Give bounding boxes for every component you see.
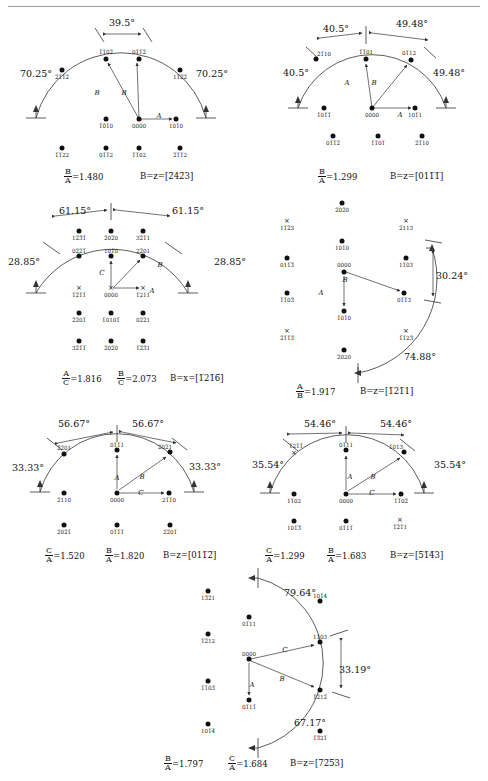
spot-1014-bottom-label: 101̅4̅	[201, 728, 215, 734]
spot-1212-right	[318, 688, 323, 693]
spot-0111-lower-label: 01̅11̅	[242, 704, 256, 710]
ratio-C-over-A-fraction: CA	[228, 755, 236, 773]
zone-axis-text: B=z=[72̅5̅3]	[290, 758, 343, 768]
arc-angle-top: 79.64°	[284, 587, 316, 598]
spot-1103-left	[206, 679, 211, 684]
spot-1103	[318, 640, 323, 645]
spot-1321-top-label: 13̅2̅1	[201, 595, 215, 601]
spot-0111-lower	[247, 698, 252, 703]
spot-1014-bottom	[206, 722, 211, 727]
spot-0111-upper-label: 01̅11	[242, 621, 256, 627]
spot-0000-origin-label: 0000	[242, 651, 256, 657]
spot-1212	[206, 632, 211, 637]
spot-1014	[318, 599, 323, 604]
figure-sheet: 2̅1̅1̅2̅1̅1̅02̅01̅1̅2̅11̅2̅2̅1̅0̅1̅00000…	[0, 0, 488, 781]
spot-1321-top	[206, 589, 211, 594]
spot-1321-bottom	[318, 729, 323, 734]
vector-label-A: A	[249, 681, 254, 689]
arc-angle-bottom: 67.17°	[294, 717, 326, 728]
spot-1212-right-label: 1̅2̅12̅	[313, 694, 327, 700]
ratio-C-over-A-value: =1.684	[236, 759, 267, 769]
arc-angle-right: 33.19°	[339, 664, 371, 675]
panel-7: 13̅2̅1101̅401̅111̅2̅1211̅0300001̅1̅03̅1̅…	[0, 0, 488, 781]
vector-label-C: C	[282, 646, 287, 654]
zone-axis: B=z=[72̅5̅3]	[290, 757, 343, 768]
spot-0000-origin	[247, 657, 252, 662]
ratio-B-over-A: BA=1.797	[164, 755, 203, 773]
ratio-C-over-A-denominator: A	[228, 764, 236, 772]
spot-1212-label: 1̅2̅12	[201, 638, 215, 644]
spot-1321-bottom-label: 1̅3̅21̅	[313, 735, 327, 741]
ratio-C-over-A: CA=1.684	[228, 755, 268, 773]
ratio-B-over-A-fraction: BA	[164, 755, 172, 773]
spot-1103-label: 11̅03	[313, 634, 327, 640]
spot-1103-left-label: 1̅1̅03̅	[201, 685, 215, 691]
spot-0111-upper	[247, 615, 252, 620]
ratio-B-over-A-value: =1.797	[172, 759, 203, 769]
ratio-B-over-A-denominator: A	[164, 764, 172, 772]
vector-label-B: B	[279, 675, 284, 683]
